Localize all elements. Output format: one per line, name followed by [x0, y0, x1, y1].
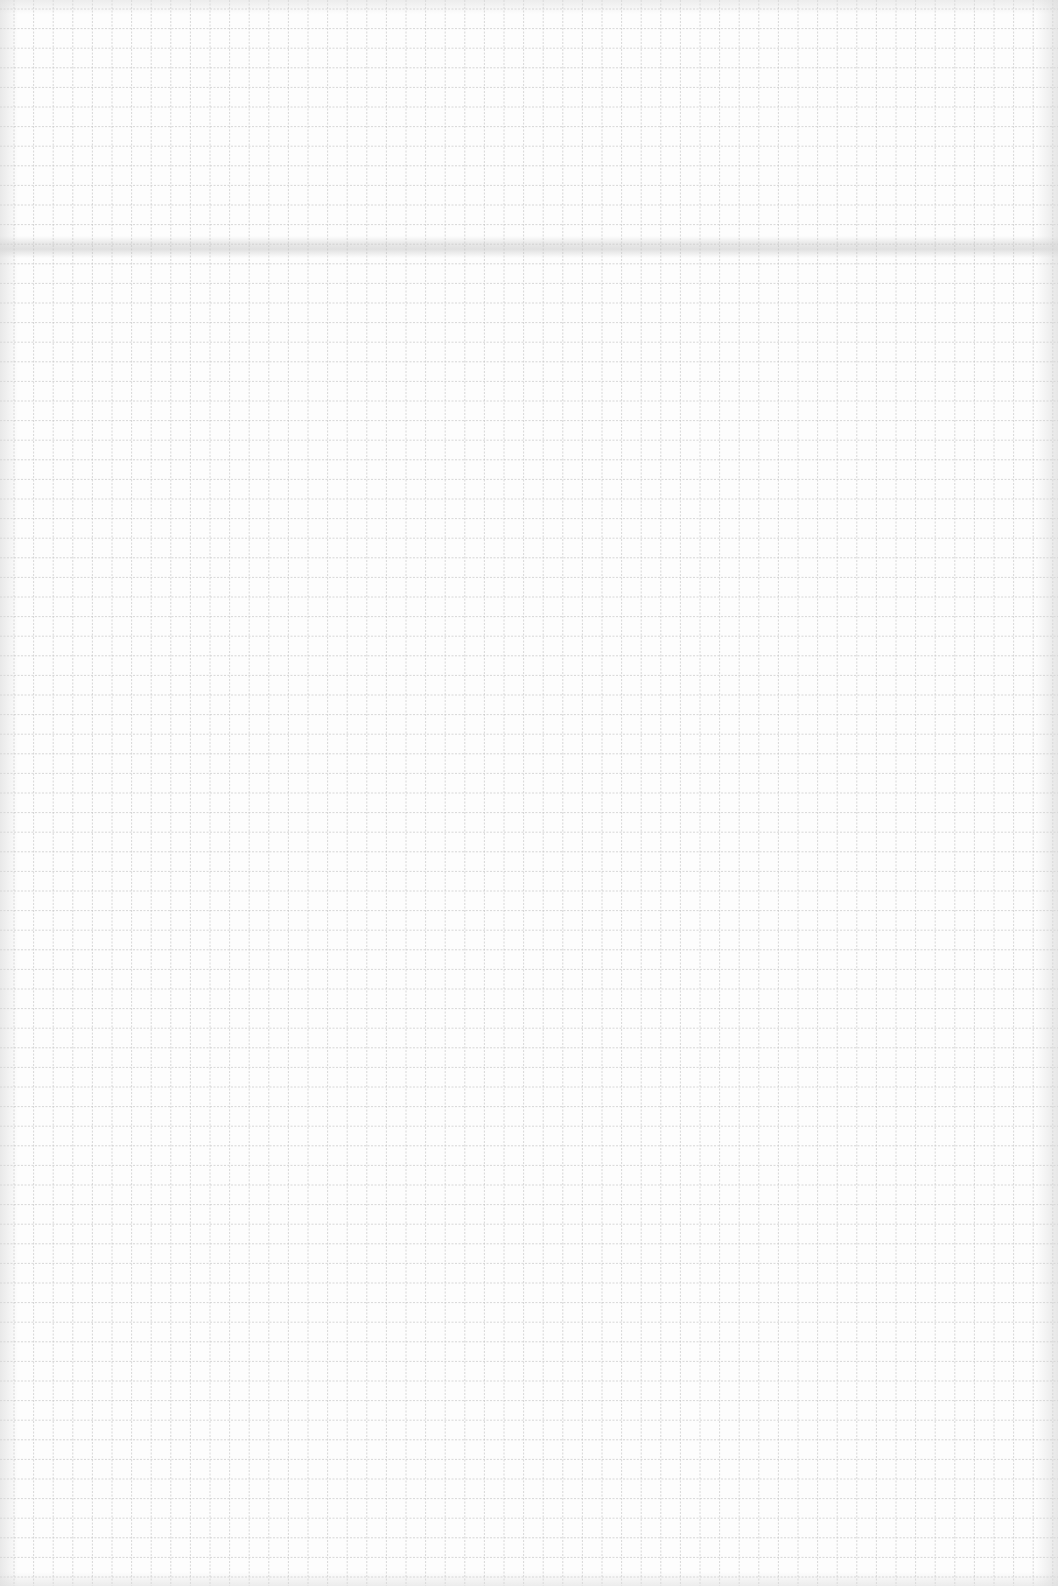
edge-shadow-bottom: [0, 1572, 1058, 1586]
graph-paper-sheet: [0, 0, 1058, 1586]
fold-crease: [0, 236, 1058, 258]
edge-shadow-top: [0, 0, 1058, 14]
edge-shadow-left: [0, 0, 18, 1586]
edge-shadow-right: [1036, 0, 1058, 1586]
